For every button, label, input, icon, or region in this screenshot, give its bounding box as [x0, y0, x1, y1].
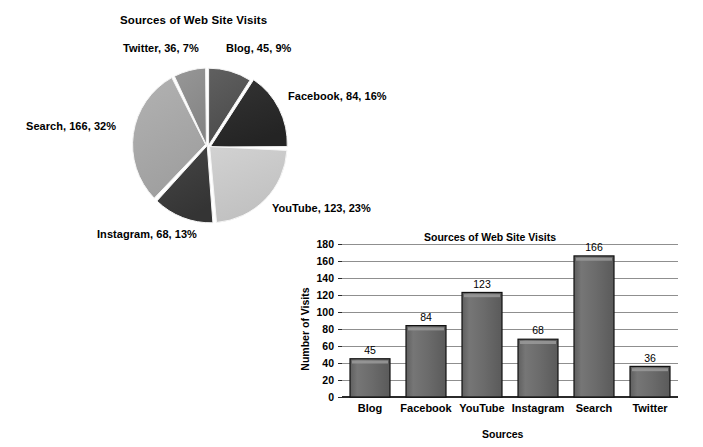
ytick-120: 120 [316, 289, 334, 301]
category-instagram: Instagram [512, 402, 565, 414]
pie-label-twitter: Twitter, 36, 7% [123, 42, 199, 54]
figure-canvas: Sources of Web Site Visits [0, 0, 703, 447]
ytick-40: 40 [322, 357, 334, 369]
xaxis-category-labels: Blog Facebook YouTube Instagram Search T… [358, 402, 669, 414]
pie-label-search: Search, 166, 32% [26, 120, 116, 132]
bar-value-youtube: 123 [473, 278, 491, 290]
bar-value-twitter: 36 [644, 352, 656, 364]
gridlines [342, 244, 678, 380]
category-search: Search [576, 402, 613, 414]
yaxis-ticks [338, 244, 342, 397]
ytick-60: 60 [322, 340, 334, 352]
bar-search[interactable] [574, 256, 614, 397]
category-blog: Blog [358, 402, 382, 414]
pie-label-facebook: Facebook, 84, 16% [288, 90, 387, 102]
ytick-140: 140 [316, 272, 334, 284]
bar-twitter[interactable] [630, 366, 670, 397]
ytick-160: 160 [316, 255, 334, 267]
ytick-180: 180 [316, 238, 334, 250]
ytick-20: 20 [322, 374, 334, 386]
yaxis-tick-labels: 180 160 140 120 100 80 60 40 20 0 [316, 238, 334, 403]
category-twitter: Twitter [632, 402, 668, 414]
bar-value-instagram: 68 [532, 324, 544, 336]
pie-chart-panel: Sources of Web Site Visits [0, 0, 420, 250]
ytick-80: 80 [322, 323, 334, 335]
ytick-100: 100 [316, 306, 334, 318]
category-youtube: YouTube [459, 402, 504, 414]
bar-value-blog: 45 [364, 344, 376, 356]
pie-label-blog: Blog, 45, 9% [226, 42, 291, 54]
bar-chart-graphic: 180 160 140 120 100 80 60 40 20 0 [296, 225, 703, 447]
pie-chart-title: Sources of Web Site Visits [120, 14, 267, 26]
bars [350, 256, 670, 397]
pie-label-youtube: YouTube, 123, 23% [272, 202, 371, 214]
bar-value-search: 166 [585, 241, 603, 253]
pie-label-instagram: Instagram, 68, 13% [97, 228, 197, 240]
bar-youtube[interactable] [462, 292, 502, 397]
category-facebook: Facebook [400, 402, 452, 414]
bar-facebook[interactable] [406, 326, 446, 397]
ytick-0: 0 [328, 391, 334, 403]
bar-instagram[interactable] [518, 339, 558, 397]
bar-value-facebook: 84 [420, 311, 432, 323]
bar-blog[interactable] [350, 359, 390, 397]
